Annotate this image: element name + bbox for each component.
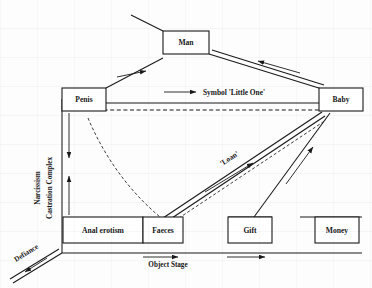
- node-label: Man: [178, 38, 194, 47]
- node-label: Baby: [333, 95, 350, 104]
- node-anal-erotism[interactable]: Anal erotism: [63, 217, 143, 243]
- node-man[interactable]: Man: [163, 31, 209, 54]
- faeces-baby-dashed-link: [170, 120, 326, 224]
- label-defiance: Defiance: [13, 243, 40, 264]
- gift-baby-link: [254, 113, 330, 217]
- faeces-baby-link-inner: [166, 116, 325, 222]
- loan-arrow: [205, 163, 253, 192]
- node-label: Gift: [243, 226, 257, 235]
- man-baby-link-outer: [209, 54, 322, 89]
- label-object-stage: Object Stage: [148, 261, 187, 269]
- node-baby[interactable]: Baby: [319, 88, 363, 111]
- diagram-svg: Man Penis Baby Anal erotism Faeces Gift …: [0, 0, 372, 288]
- gift-baby-arrow: [286, 147, 313, 184]
- node-faeces[interactable]: Faeces: [143, 217, 183, 243]
- man-upper-left-link: [131, 15, 163, 31]
- node-gift[interactable]: Gift: [228, 217, 272, 243]
- penis-man-arrow: [117, 71, 146, 77]
- penis-faeces-dashed-arc: [88, 118, 160, 217]
- label-narcissism: Narcissism: [34, 171, 42, 204]
- defiance-arrow: [25, 258, 47, 272]
- label-loan: 'Loan': [218, 149, 240, 168]
- node-label: Faeces: [152, 226, 174, 235]
- label-symbol-little-one: Symbol 'Little One': [203, 88, 265, 97]
- diagram-canvas: Man Penis Baby Anal erotism Faeces Gift …: [0, 0, 372, 288]
- node-money[interactable]: Money: [315, 217, 359, 243]
- node-label: Money: [326, 226, 349, 235]
- node-label: Penis: [75, 95, 92, 104]
- label-castration-complex: Castration Complex: [46, 157, 54, 219]
- man-baby-link-inner: [212, 50, 324, 85]
- node-label: Anal erotism: [82, 226, 125, 235]
- faeces-baby-link-outer: [163, 112, 322, 218]
- node-penis[interactable]: Penis: [62, 88, 106, 111]
